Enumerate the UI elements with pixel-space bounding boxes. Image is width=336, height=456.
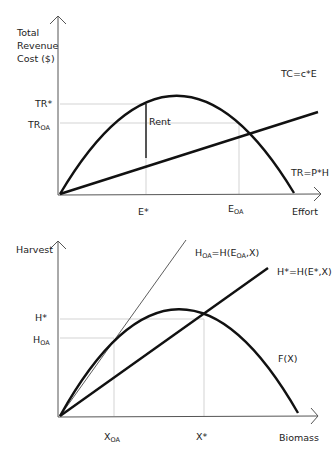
h-oa-label: HOA=H(EOA,X) [195, 247, 259, 262]
y-axis-label: Harvest [16, 244, 53, 256]
h-oa-line [60, 240, 186, 416]
y-axis-label-line2: Revenue [17, 40, 58, 52]
x-star-tick: X* [196, 431, 207, 443]
e-star-tick: E* [138, 206, 149, 218]
x-axis-label: Biomass [279, 432, 319, 444]
h-star-label: H*=H(E*,X) [277, 266, 332, 278]
growth-curve [60, 309, 298, 416]
e-oa-tick: EOA [228, 203, 243, 218]
tr-star-tick: TR* [35, 98, 52, 110]
h-star-line [60, 268, 268, 416]
tc-line [60, 112, 318, 194]
growth-label: F(X) [278, 353, 297, 365]
tr-curve [60, 96, 294, 194]
x-axis-label: Effort [292, 206, 318, 218]
tr-label: TR=P*H [291, 167, 329, 179]
rent-label: Rent [149, 116, 171, 128]
x-axis [58, 416, 318, 417]
tr-oa-tick: TROA [28, 119, 50, 134]
top-chart [50, 16, 321, 201]
tc-label: TC=c*E [281, 68, 317, 80]
y-axis-label-line1: Total [17, 27, 39, 39]
h-oa-tick: HOA [33, 334, 50, 349]
h-star-tick: H* [35, 312, 47, 324]
y-axis-label-line3: Cost ($) [17, 53, 55, 65]
x-oa-tick: XOA [104, 431, 120, 446]
x-axis [58, 194, 320, 195]
